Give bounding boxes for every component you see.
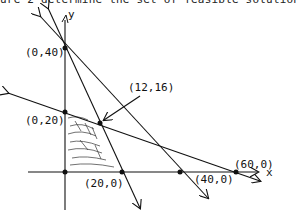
line-0-20-to-60-0 — [8, 93, 260, 181]
label-12-16: (12,16) — [128, 81, 174, 94]
label-40-0: (40,0) — [194, 173, 234, 186]
feasible-region — [65, 112, 122, 172]
lp-diagram: y x (0,40) (0,20) (12,16) (20,0) (40,0) … — [0, 0, 296, 220]
point-20-0 — [120, 170, 125, 175]
y-axis-label: y — [68, 8, 75, 21]
point-0-0 — [63, 170, 68, 175]
point-40-0 — [178, 170, 183, 175]
point-12-16 — [98, 121, 103, 126]
label-0-20: (0,20) — [25, 114, 65, 127]
label-20-0: (20,0) — [84, 177, 124, 190]
label-60-0: (60,0) — [234, 158, 274, 171]
callout-arrow — [104, 96, 140, 120]
label-0-40: (0,40) — [25, 46, 65, 59]
